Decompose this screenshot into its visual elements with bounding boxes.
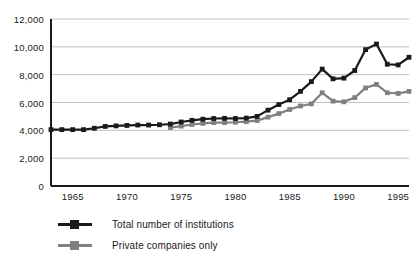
series-marker [396, 91, 401, 96]
series-marker [200, 117, 205, 122]
legend-marker-private [70, 241, 79, 250]
series-marker [168, 122, 173, 127]
series-marker [352, 95, 357, 100]
x-tick-label: 1970 [107, 191, 147, 202]
legend-marker-total [70, 220, 79, 229]
series-marker [179, 120, 184, 125]
y-tick-label: 0 [0, 181, 44, 192]
series-marker [179, 124, 184, 129]
series-marker [298, 104, 303, 109]
series-marker [146, 123, 151, 128]
series-marker [385, 90, 390, 95]
series-marker [222, 116, 227, 121]
legend-swatch-total-icon [58, 218, 92, 231]
legend-item-private: Private companies only [58, 235, 234, 256]
series-marker [309, 79, 314, 84]
series-marker [114, 123, 119, 128]
chart-figure: 02,0004,0006,0008,00010,00012,000 196519… [0, 0, 419, 268]
y-tick-label: 4,000 [0, 125, 44, 136]
series-marker [320, 90, 325, 95]
series-marker [200, 121, 205, 126]
x-tick-label: 1980 [215, 191, 255, 202]
series-marker [255, 118, 260, 123]
series-marker [342, 76, 347, 81]
legend-label-total: Total number of institutions [112, 219, 234, 230]
series-marker [266, 115, 271, 120]
chart-legend: Total number of institutions Private com… [58, 214, 234, 256]
y-tick-label: 8,000 [0, 69, 44, 80]
series-marker [135, 123, 140, 128]
series-marker [190, 118, 195, 123]
y-tick-label: 2,000 [0, 153, 44, 164]
series-marker [157, 122, 162, 127]
series-marker [276, 111, 281, 116]
series-marker [211, 116, 216, 121]
legend-label-private: Private companies only [112, 240, 218, 251]
series-marker [298, 89, 303, 94]
series-marker [352, 68, 357, 73]
series-marker [320, 67, 325, 72]
series-line [51, 44, 409, 130]
series-marker [59, 127, 64, 132]
y-tick-label: 6,000 [0, 97, 44, 108]
series-marker [244, 116, 249, 121]
x-tick-label: 1975 [161, 191, 201, 202]
series-marker [287, 97, 292, 102]
x-tick-label: 1985 [270, 191, 310, 202]
series-marker [255, 114, 260, 119]
x-tick-label: 1995 [378, 191, 418, 202]
series-marker [190, 122, 195, 127]
series-marker [81, 127, 86, 132]
series-marker [363, 85, 368, 90]
series-marker [49, 127, 54, 132]
series-line [170, 84, 409, 127]
series-marker [103, 124, 108, 129]
series-marker [287, 107, 292, 112]
data-series-layer [49, 42, 412, 132]
series-marker [331, 99, 336, 104]
series-marker [407, 89, 412, 94]
series-marker [374, 42, 379, 47]
series-marker [363, 47, 368, 52]
series-marker [266, 108, 271, 113]
series-marker [331, 76, 336, 81]
y-tick-label: 12,000 [0, 14, 44, 25]
gridlines [51, 19, 409, 158]
series-marker [276, 102, 281, 107]
series-marker [396, 63, 401, 68]
legend-item-total: Total number of institutions [58, 214, 234, 235]
x-tick-label: 1990 [324, 191, 364, 202]
series-marker [211, 120, 216, 125]
legend-swatch-private-icon [58, 239, 92, 252]
y-tick-label: 10,000 [0, 41, 44, 52]
series-marker [374, 82, 379, 87]
series-marker [125, 123, 130, 128]
series-marker [385, 62, 390, 67]
series-marker [92, 126, 97, 131]
series-marker [407, 55, 412, 60]
x-tick-label: 1965 [53, 191, 93, 202]
series-marker [222, 120, 227, 125]
series-marker [233, 116, 238, 121]
series-marker [342, 99, 347, 104]
series-marker [70, 127, 75, 132]
series-marker [309, 101, 314, 106]
